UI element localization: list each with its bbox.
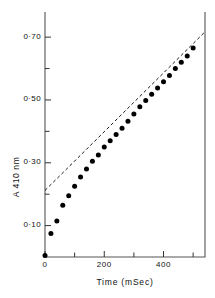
data-point [173,66,178,71]
axes-frame [45,12,205,257]
data-point [54,218,59,223]
data-point [43,253,48,258]
x-axis-minor-ticks [75,253,194,258]
figure-container: 0·100·300·500·70 0200400 A 410 nm Time (… [0,0,215,298]
data-point [96,152,101,157]
data-point [114,132,119,137]
data-point [161,79,166,84]
y-axis-title: A 410 nm [11,147,21,207]
data-point [167,73,172,78]
data-point [137,104,142,109]
data-point [48,231,53,236]
data-point [185,53,190,58]
fit-line-dashed [45,32,205,191]
data-point [120,126,125,131]
data-point [102,145,107,150]
data-point [84,167,89,172]
data-point [60,203,65,208]
data-point [149,92,154,97]
y-tick-label: 0·50 [11,94,41,103]
data-point [125,119,130,124]
data-point [108,138,113,143]
data-point [155,86,160,91]
data-point [72,184,77,189]
y-tick-label: 0·10 [11,220,41,229]
data-point [78,174,83,179]
data-point [143,98,148,103]
x-tick-label: 200 [97,260,112,269]
x-axis-major-ticks [45,251,164,257]
data-point [179,60,184,65]
data-points [43,46,196,258]
data-point [66,193,71,198]
x-tick-label: 0 [43,260,48,269]
x-axis-title: Time (mSec) [45,277,205,287]
data-point [131,112,136,117]
y-axis-minor-ticks [45,69,50,195]
data-point [90,159,95,164]
x-tick-label: 400 [156,260,171,269]
data-point [191,46,196,51]
y-tick-label: 0·70 [11,32,41,41]
